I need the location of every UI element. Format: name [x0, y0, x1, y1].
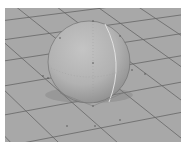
viewport-scene [5, 8, 181, 142]
3d-viewport[interactable] [5, 8, 181, 142]
sphere-object[interactable] [45, 21, 133, 106]
